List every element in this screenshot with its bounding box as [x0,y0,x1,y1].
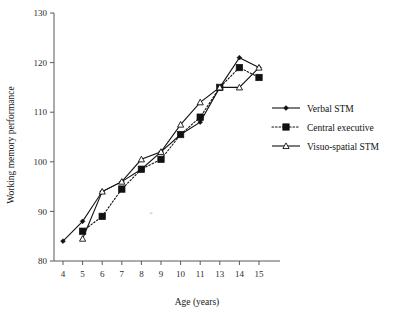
x-tick-label-11: 11 [196,269,205,279]
x-tick-label-7: 7 [120,269,125,279]
y-tick-label-100: 100 [34,157,48,167]
data-point-9 [158,156,164,162]
chart-figure: 8090100110120130 4567891011131415 * Age … [0,0,394,316]
x-tick-label-6: 6 [100,269,105,279]
data-point-14 [236,64,242,70]
y-tick-label-80: 80 [38,256,48,266]
y-tick-label-130: 130 [34,8,48,18]
x-tick-label-14: 14 [235,269,245,279]
x-tick-label-9: 9 [159,269,164,279]
data-point-7 [119,186,125,192]
data-point-6 [99,213,105,219]
x-tick-label-15: 15 [255,269,265,279]
y-tick-label-110: 110 [34,107,48,117]
x-axis-title: Age (years) [175,297,220,308]
data-point-10 [177,131,183,137]
stray-asterisk: * [149,210,153,218]
y-tick-label-90: 90 [38,207,48,217]
y-axis-title: Working memory performance [6,86,16,203]
legend-label: Visuo-spatial STM [307,142,380,152]
working-memory-line-chart: 8090100110120130 4567891011131415 * Age … [0,0,394,316]
legend-label: Verbal STM [307,104,354,114]
y-tick-label-120: 120 [34,58,48,68]
x-tick-label-4: 4 [61,269,66,279]
x-tick-label-10: 10 [176,269,186,279]
x-tick-label-13: 13 [215,269,225,279]
data-point-8 [138,166,144,172]
data-point-15 [256,74,262,80]
x-tick-label-8: 8 [139,269,144,279]
x-tick-label-5: 5 [80,269,85,279]
data-point-11 [197,114,203,120]
legend-label: Central executive [307,123,374,133]
legend-marker-filled-square [283,124,289,130]
annotation-layer: * [149,210,153,218]
